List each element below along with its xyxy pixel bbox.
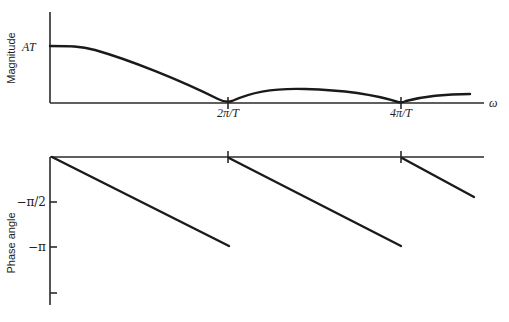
phase-plot: −π/2 −π Phase angle: [5, 151, 484, 305]
at-label: AT: [21, 40, 37, 54]
magnitude-plot: AT Magnitude 2π/T 4π/T ω: [5, 12, 497, 120]
tick-4pi-label: 4π/T: [390, 106, 413, 120]
figure-canvas: AT Magnitude 2π/T 4π/T ω −π/2 −π Phase a…: [0, 0, 509, 322]
tick-2pi-label: 2π/T: [217, 106, 240, 120]
magnitude-axis-label: Magnitude: [5, 32, 17, 83]
neg-pi-half-label: −π/2: [16, 195, 46, 209]
neg-pi-label: −π: [28, 240, 46, 254]
omega-label: ω: [489, 96, 497, 110]
magnitude-curve: [50, 46, 470, 102]
phase-segment-3: [402, 158, 474, 197]
phase-axis-label: Phase angle: [5, 212, 17, 273]
phase-segment-1: [52, 157, 229, 246]
phase-segment-2: [229, 158, 401, 246]
